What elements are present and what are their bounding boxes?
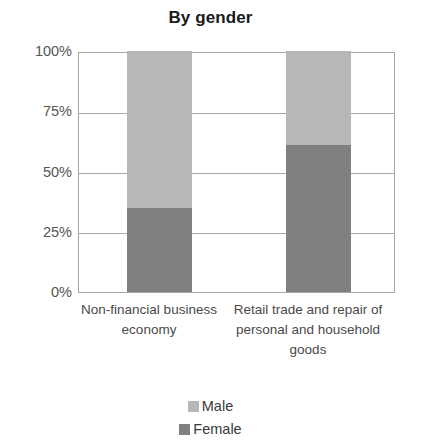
bar-0[interactable] [127, 51, 192, 292]
chart-legend: Male Female [0, 395, 421, 441]
x-axis-label-1: Retail trade and repair of personal and … [229, 300, 387, 360]
bar-segment-female-1[interactable] [286, 145, 351, 292]
y-axis-tick-0: 0% [2, 285, 72, 300]
y-axis: 100%75%50%25%0% [0, 0, 72, 446]
legend-label-female: Female [193, 422, 241, 437]
chart-container: By gender 100%75%50%25%0% Non-financial … [0, 0, 421, 446]
legend-item-female[interactable]: Female [0, 418, 421, 441]
y-axis-tick-75: 75% [2, 104, 72, 119]
plot-area [78, 52, 395, 293]
bar-segment-male-1[interactable] [286, 51, 351, 145]
bar-segment-male-0[interactable] [127, 51, 192, 208]
legend-label-male: Male [202, 399, 233, 414]
x-axis-label-0: Non-financial business economy [70, 300, 228, 340]
bar-segment-female-0[interactable] [127, 208, 192, 292]
x-axis-labels: Non-financial business economy Retail tr… [78, 300, 395, 390]
legend-swatch-female [179, 424, 190, 435]
legend-swatch-male [188, 401, 199, 412]
legend-item-male[interactable]: Male [0, 395, 421, 418]
bar-1[interactable] [286, 51, 351, 292]
y-axis-tick-100: 100% [2, 44, 72, 59]
y-axis-tick-25: 25% [2, 225, 72, 240]
y-axis-tick-50: 50% [2, 165, 72, 180]
